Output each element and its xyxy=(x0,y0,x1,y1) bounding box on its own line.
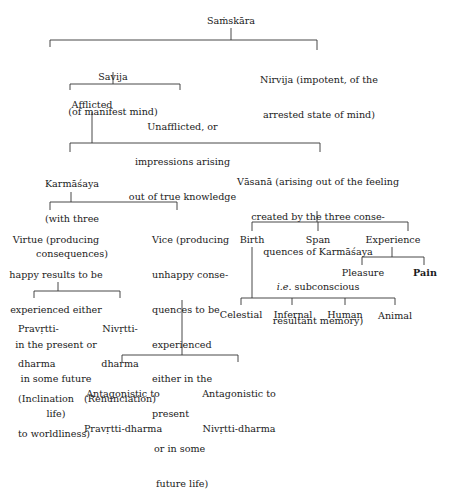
node-pain: Pain xyxy=(410,267,440,279)
node-vasana-line: created by the three conse- xyxy=(226,211,410,223)
node-antag-nivrtti-line: Antagonistic to xyxy=(196,388,282,400)
node-vice-line: future life) xyxy=(152,478,242,490)
node-antagonistic-nivrtti: Antagonistic to Nivṛtti-dharma xyxy=(196,365,282,446)
node-nivrtti-line: Nivṛtti- xyxy=(84,323,156,335)
node-virtue-line: Virtue (producing xyxy=(0,234,112,246)
node-virtue-line: happy results to be xyxy=(0,269,112,281)
node-vasana-line: Vāsanā (arising out of the feeling xyxy=(226,176,410,188)
node-vice-line: Vice (producing xyxy=(152,234,242,246)
node-vice: Vice (producing unhappy conse- quences t… xyxy=(152,211,242,493)
node-vasana-line: quences of Karmāśaya xyxy=(226,246,410,258)
node-nirvija-line: Nirvija (impotent, of the xyxy=(242,74,396,86)
node-birth: Birth xyxy=(232,234,272,246)
node-antagonistic-pravrtti: Antagonistic to Pravṛtti-dharma xyxy=(80,365,166,446)
node-nirvija: Nirvija (impotent, of the arrested state… xyxy=(242,51,396,132)
node-span: Span xyxy=(298,234,338,246)
node-antag-nivrtti-line: Nivṛtti-dharma xyxy=(196,423,282,435)
node-vasana-text: subconscious xyxy=(295,281,360,292)
node-savija-line: Savija xyxy=(52,71,174,83)
node-pleasure: Pleasure xyxy=(336,267,390,279)
node-nirvija-line: arrested state of mind) xyxy=(242,109,396,121)
node-infernal: Infernal xyxy=(268,309,318,321)
node-vice-line: experienced xyxy=(152,339,242,351)
node-antag-pravrtti-line: Antagonistic to xyxy=(80,388,166,400)
node-experience: Experience xyxy=(360,234,426,246)
node-celestial: Celestial xyxy=(215,309,267,321)
node-samskara: Saṁskāra xyxy=(196,15,266,27)
node-vasana-line: i.e. subconscious xyxy=(226,281,410,293)
ie-abbrev: i.e. xyxy=(277,281,292,292)
node-animal: Animal xyxy=(372,310,418,322)
node-antag-pravrtti-line: Pravṛtti-dharma xyxy=(80,423,166,435)
node-human: Human xyxy=(323,309,367,321)
node-karmasaya-line: Karmāśaya xyxy=(30,178,114,190)
node-vice-line: unhappy conse- xyxy=(152,269,242,281)
node-unafflicted-line: Unafflicted, or xyxy=(120,121,245,133)
